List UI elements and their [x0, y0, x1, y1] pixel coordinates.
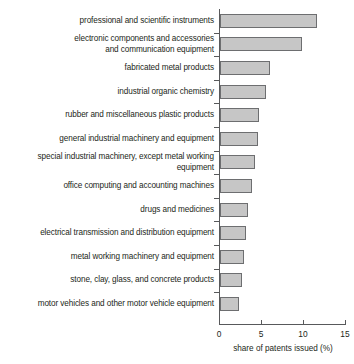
- y-axis-tick: [214, 56, 219, 57]
- bar: [220, 203, 248, 217]
- x-axis-tick-label: 10: [298, 329, 307, 339]
- bar: [220, 61, 270, 75]
- bar-row: drugs and medicines: [0, 198, 354, 222]
- bar-row: electrical transmission and distribution…: [0, 221, 354, 245]
- bar: [220, 14, 317, 28]
- bar: [220, 85, 266, 99]
- bar-category-label: professional and scientific instruments: [0, 16, 214, 26]
- y-axis-tick: [214, 245, 219, 246]
- bar-category-label: general industrial machinery and equipme…: [0, 134, 214, 144]
- bar-category-label: metal working machinery and equipment: [0, 252, 214, 262]
- x-axis-tick: [303, 320, 304, 325]
- bar-row: industrial organic chemistry: [0, 80, 354, 104]
- bar-category-label: motor vehicles and other motor vehicle e…: [0, 299, 214, 309]
- bar-row: special industrial machinery, except met…: [0, 151, 354, 175]
- y-axis-tick: [214, 151, 219, 152]
- bar-row: office computing and accounting machines: [0, 174, 354, 198]
- bar-category-label: electrical transmission and distribution…: [0, 228, 214, 238]
- bar: [220, 108, 259, 122]
- bar-category-label: drugs and medicines: [0, 204, 214, 214]
- x-axis-tick-label: 0: [217, 329, 222, 339]
- bar-category-label: rubber and miscellaneous plastic product…: [0, 110, 214, 120]
- y-axis-tick: [214, 174, 219, 175]
- x-axis-title: share of patents issued (%): [219, 344, 347, 354]
- y-axis-tick: [214, 127, 219, 128]
- bar: [220, 226, 246, 240]
- bar-chart: professional and scientific instrumentse…: [0, 0, 354, 364]
- bar-row: motor vehicles and other motor vehicle e…: [0, 292, 354, 316]
- x-axis-tick: [345, 320, 346, 325]
- y-axis-tick: [214, 198, 219, 199]
- x-axis-tick-label: 5: [259, 329, 264, 339]
- bar: [220, 179, 252, 193]
- bar-row: rubber and miscellaneous plastic product…: [0, 103, 354, 127]
- x-axis-tick-label: 15: [340, 329, 349, 339]
- x-axis-tick: [219, 320, 220, 325]
- bar: [220, 37, 302, 51]
- y-axis-tick: [214, 103, 219, 104]
- bar-category-label: fabricated metal products: [0, 63, 214, 73]
- y-axis-tick: [214, 33, 219, 34]
- bar: [220, 250, 244, 264]
- bar-row: professional and scientific instruments: [0, 9, 354, 33]
- bar-category-label: stone, clay, glass, and concrete product…: [0, 275, 214, 285]
- plot-area: professional and scientific instrumentse…: [0, 0, 354, 330]
- bar-category-label: office computing and accounting machines: [0, 181, 214, 191]
- bar-category-label: electronic components and accessories an…: [0, 34, 214, 54]
- bar: [220, 132, 258, 146]
- bar: [220, 297, 239, 311]
- bar-category-label: special industrial machinery, except met…: [0, 152, 214, 172]
- x-axis-line: [219, 324, 345, 325]
- bar-category-label: industrial organic chemistry: [0, 86, 214, 96]
- bar: [220, 155, 255, 169]
- bar-row: general industrial machinery and equipme…: [0, 127, 354, 151]
- bar-row: stone, clay, glass, and concrete product…: [0, 269, 354, 293]
- y-axis-tick: [214, 292, 219, 293]
- x-axis-tick: [261, 320, 262, 325]
- bar-row: electronic components and accessories an…: [0, 33, 354, 57]
- y-axis-tick: [214, 221, 219, 222]
- bar-row: fabricated metal products: [0, 56, 354, 80]
- y-axis-tick: [214, 269, 219, 270]
- bar: [220, 273, 242, 287]
- y-axis-tick: [214, 80, 219, 81]
- bar-row: metal working machinery and equipment: [0, 245, 354, 269]
